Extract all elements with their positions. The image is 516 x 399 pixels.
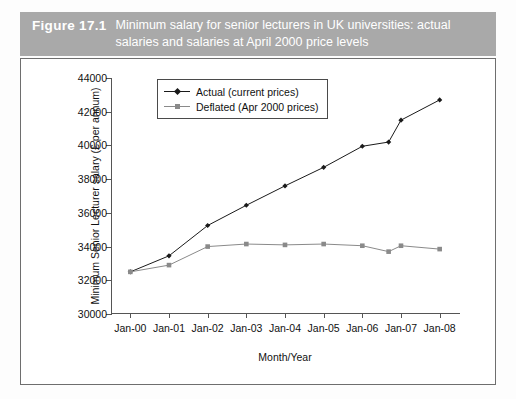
data-point-marker-square [244,242,249,247]
x-tick-mark [246,314,247,318]
x-tick-mark [169,314,170,318]
legend-item-actual: Actual (current prices) [164,84,319,99]
y-tick-label: 38000 [78,173,107,185]
x-tick-label: Jan-07 [385,322,417,334]
x-tick-label: Jan-04 [269,322,301,334]
y-tick-label: 34000 [78,241,107,253]
x-tick-label: Jan-08 [424,322,456,334]
x-tick-mark [285,314,286,318]
y-tick-label: 36000 [78,207,107,219]
legend-marker-diamond-icon [164,86,190,97]
x-tick-mark [440,314,441,318]
data-point-marker-diamond [437,97,442,102]
legend-label-actual: Actual (current prices) [196,86,299,98]
chart-legend: Actual (current prices) Deflated (Apr 20… [157,79,328,119]
data-point-marker-diamond [321,165,326,170]
x-tick-mark [362,314,363,318]
data-point-marker-diamond [398,118,403,123]
data-point-marker-square [128,270,133,275]
x-tick-label: Jan-06 [346,322,378,334]
chart-frame: Minimum Senior Lecturer salary (£ per an… [20,58,496,385]
series-line-deflated [130,244,439,272]
data-point-marker-square [399,243,404,248]
data-point-marker-square [360,243,365,248]
data-point-marker-diamond [360,144,365,149]
x-tick-mark [401,314,402,318]
y-tick-label: 42000 [78,106,107,118]
figure-caption-band: Figure 17.1 Minimum salary for senior le… [20,12,496,56]
x-tick-mark [208,314,209,318]
data-point-marker-square [386,249,391,254]
data-point-marker-diamond [244,203,249,208]
data-point-marker-square [167,263,172,268]
y-tick-label: 30000 [78,308,107,320]
data-point-marker-square [437,247,442,252]
data-point-marker-square [283,243,288,248]
y-tick-label: 40000 [78,139,107,151]
x-tick-label: Jan-00 [114,322,146,334]
legend-item-deflated: Deflated (Apr 2000 prices) [164,99,319,114]
y-axis-title-holder: Minimum Senior Lecturer salary (£ per an… [43,78,44,314]
y-tick-label: 44000 [78,72,107,84]
legend-label-deflated: Deflated (Apr 2000 prices) [196,101,319,113]
x-tick-mark [324,314,325,318]
figure-number-label: Figure 17.1 [32,17,107,34]
legend-marker-square-icon [164,101,190,112]
y-tick-label: 32000 [78,274,107,286]
x-tick-label: Jan-05 [308,322,340,334]
data-point-marker-square [205,244,210,249]
data-point-marker-diamond [386,139,391,144]
figure-caption-text: Minimum salary for senior lecturers in U… [116,17,486,51]
data-point-marker-diamond [282,183,287,188]
x-axis-title: Month/Year [111,351,459,363]
x-tick-mark [130,314,131,318]
x-tick-label: Jan-01 [153,322,185,334]
figure-root: Figure 17.1 Minimum salary for senior le… [0,0,516,399]
data-point-marker-square [321,242,326,247]
x-tick-label: Jan-03 [230,322,262,334]
x-tick-label: Jan-02 [192,322,224,334]
